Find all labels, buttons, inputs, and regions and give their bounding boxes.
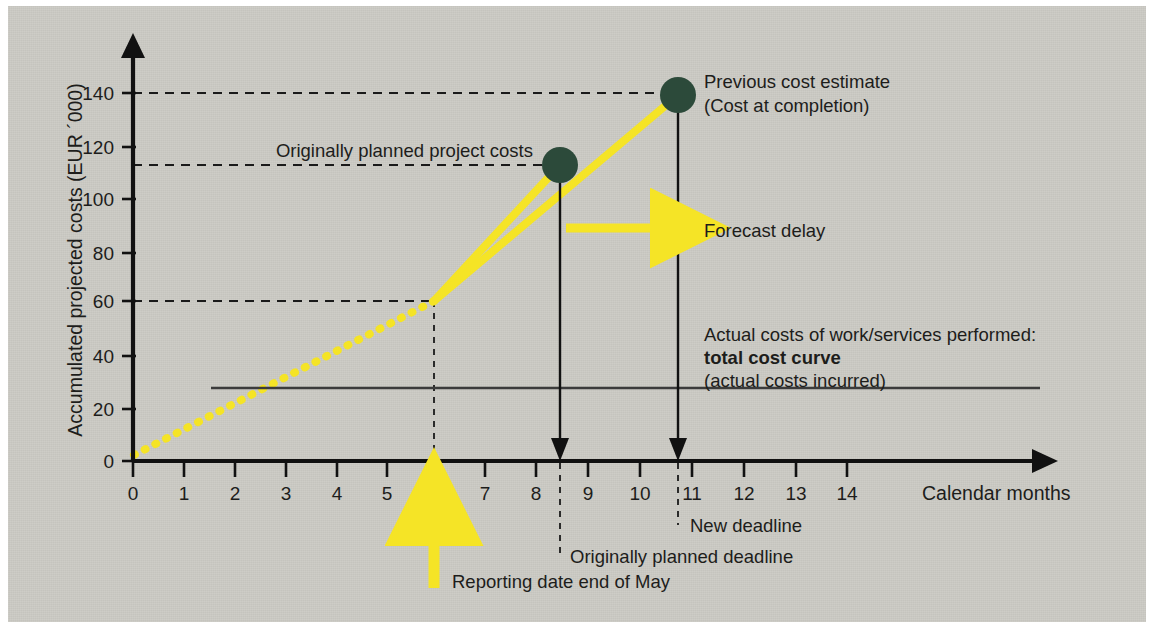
x-axis-title: Calendar months	[922, 482, 1071, 504]
annotation-originally-planned-project-costs: Originally planned project costs	[276, 140, 533, 161]
x-tick-label: 8	[531, 483, 542, 504]
x-tick-label: 3	[281, 483, 292, 504]
x-tick-label: 13	[785, 483, 806, 504]
drop-line-new-deadline	[669, 95, 687, 461]
series-actual-dotted	[134, 301, 434, 455]
annotation-previous-cost-estimate-line1: Previous cost estimate	[704, 71, 890, 92]
x-axis-tick-labels: 0 1 2 3 4 5 6 7 8 9 10 11 12 13 14	[128, 483, 858, 504]
annotation-previous-cost-estimate-line2: (Cost at completion)	[704, 95, 870, 116]
y-axis-title: Accumulated projected costs (EUR ´000)	[64, 83, 86, 436]
x-tick-label: 1	[179, 483, 190, 504]
chart-canvas: 140 120 100 80 60 40 20 0	[0, 0, 1154, 634]
series-previous-estimate	[434, 95, 678, 301]
x-tick-label: 10	[629, 483, 650, 504]
x-axis	[133, 449, 1058, 473]
y-tick-label: 100	[82, 189, 114, 210]
y-axis-tick-labels: 140 120 100 80 60 40 20 0	[82, 83, 114, 472]
x-tick-label: 5	[382, 483, 393, 504]
y-tick-label: 0	[103, 451, 114, 472]
chart-screenshot: 140 120 100 80 60 40 20 0	[0, 0, 1154, 634]
annotation-actual-costs-line2: total cost curve	[704, 347, 841, 368]
x-tick-label: 9	[583, 483, 594, 504]
y-tick-label: 120	[82, 137, 114, 158]
y-axis	[121, 33, 145, 461]
marker-previous-cost-estimate[interactable]	[660, 77, 696, 113]
x-tick-label: 7	[480, 483, 491, 504]
y-tick-label: 20	[93, 399, 114, 420]
annotation-new-deadline: New deadline	[690, 515, 802, 536]
y-tick-label: 40	[93, 346, 114, 367]
annotation-actual-costs-line1: Actual costs of work/services performed:	[704, 324, 1036, 345]
y-tick-label: 60	[93, 291, 114, 312]
x-tick-label: 2	[230, 483, 241, 504]
annotation-reporting-date: Reporting date end of May	[452, 571, 671, 592]
annotation-actual-costs-line3: (actual costs incurred)	[704, 370, 886, 391]
marker-originally-planned-project-costs[interactable]	[542, 147, 578, 183]
y-tick-label: 140	[82, 83, 114, 104]
x-tick-label: 0	[128, 483, 139, 504]
x-tick-label: 4	[332, 483, 343, 504]
x-tick-label: 12	[733, 483, 754, 504]
x-axis-ticks	[133, 461, 847, 477]
drop-line-originally-planned-deadline	[551, 165, 569, 461]
annotation-originally-planned-deadline: Originally planned deadline	[570, 546, 793, 567]
x-tick-label: 11	[682, 483, 702, 504]
annotation-forecast-delay: Forecast delay	[704, 220, 826, 241]
x-tick-label: 6	[429, 483, 440, 504]
x-tick-label: 14	[836, 483, 858, 504]
y-tick-label: 80	[93, 243, 114, 264]
